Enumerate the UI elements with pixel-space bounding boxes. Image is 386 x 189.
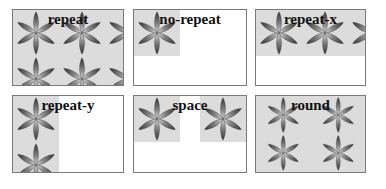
box-label: round [256,97,365,114]
box-label: no-repeat [134,11,246,28]
flower-tile [13,56,59,86]
box-label: space [134,97,246,114]
flower-tile [256,134,311,172]
box-label: repeat-x [256,11,365,28]
box-no-repeat: no-repeat [133,9,247,86]
box-repeat-x: repeat-x [255,9,366,86]
flower-tile [59,56,105,86]
box-repeat-y: repeat-y [12,95,124,173]
flower-tile [13,142,59,173]
flower-icon [13,56,59,86]
box-label: repeat [13,11,123,28]
flower-icon [13,142,59,173]
flower-icon [59,56,105,86]
box-space: space [133,95,247,173]
flower-icon [105,56,124,86]
box-round: round [255,95,366,173]
flower-icon [256,134,311,172]
box-label: repeat-y [13,97,123,114]
flower-icon [311,134,366,172]
flower-tile [105,56,124,86]
box-repeat: repeat [12,9,124,86]
flower-tile [311,134,366,172]
